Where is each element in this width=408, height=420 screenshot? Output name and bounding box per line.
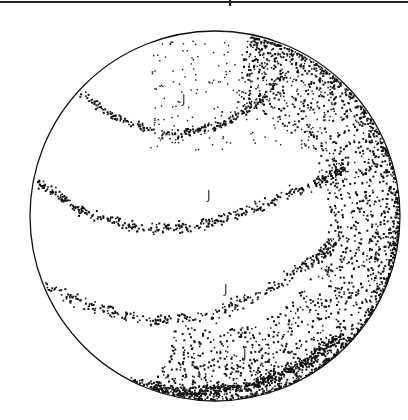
joint-set-label: J: [182, 92, 186, 106]
stereonet-plot: [0, 0, 408, 420]
joint-set-label: J: [207, 188, 211, 202]
joint-set-label: J: [224, 282, 228, 296]
joint-set-label: J: [243, 347, 247, 361]
